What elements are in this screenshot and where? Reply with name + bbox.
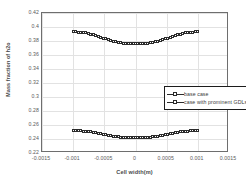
y-axis-title: Mass fraction of h2o <box>5 35 12 105</box>
data-series-layer <box>42 13 227 151</box>
legend-label: case with prominent GDLs <box>184 99 246 106</box>
data-point-marker <box>196 129 199 132</box>
legend-item-base-case[interactable]: base case <box>167 90 243 98</box>
x-axis-title: Cell width(m) <box>41 168 228 176</box>
legend-marker-icon <box>167 91 184 98</box>
y-axis-tick-label: 0.42 <box>1 9 39 15</box>
legend-marker-icon <box>167 99 184 106</box>
y-axis-tick-label: 0.24 <box>1 135 39 141</box>
y-axis-tick-label: 0.4 <box>1 23 39 29</box>
chart-figure: 0.220.240.260.280.30.320.340.360.380.40.… <box>0 0 246 183</box>
x-axis-tick-label: 0.0015 <box>208 155 246 162</box>
legend-item-prominent-gdls[interactable]: case with prominent GDLs <box>167 98 243 106</box>
chart-legend[interactable]: base case case with prominent GDLs <box>164 86 246 110</box>
legend-label: base case <box>184 91 209 98</box>
y-axis-tick-label: 0.26 <box>1 121 39 127</box>
x-axis-tick-labels: -0.0015-0.001-0.000500.00050.0010.0015 <box>41 155 228 165</box>
data-point-marker <box>196 30 199 33</box>
y-axis-tick-label: 0.28 <box>1 107 39 113</box>
plot-area: base case case with prominent GDLs <box>41 12 228 152</box>
